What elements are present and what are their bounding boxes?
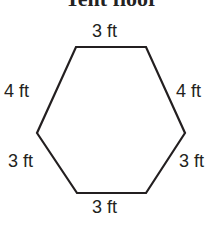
label-top-side: 3 ft xyxy=(92,22,117,40)
label-bottom-side: 3 ft xyxy=(92,198,117,216)
label-lower-left-side: 3 ft xyxy=(8,152,33,170)
label-upper-right-side: 4 ft xyxy=(176,82,201,100)
label-upper-left-side: 4 ft xyxy=(4,82,29,100)
label-lower-right-side: 3 ft xyxy=(179,152,204,170)
